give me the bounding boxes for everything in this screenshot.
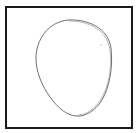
oval-outline-secondary	[69, 21, 111, 115]
stray-mark	[100, 44, 102, 46]
oval-sketch	[0, 0, 138, 133]
oval-outline-primary	[36, 20, 112, 116]
